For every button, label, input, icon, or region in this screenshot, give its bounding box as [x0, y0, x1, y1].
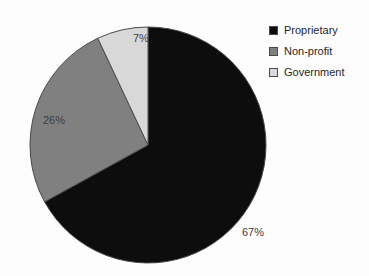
legend-label-non-profit: Non-profit: [284, 46, 332, 57]
legend-item-government[interactable]: Government: [269, 66, 345, 78]
legend-swatch-icon-government: [269, 68, 278, 77]
legend-label-government: Government: [284, 67, 345, 78]
pie-chart-plot-area: 67% 26% 7%: [29, 26, 267, 264]
pie-slice-group: [30, 27, 266, 263]
pie-slice-label-non-profit: 26%: [43, 114, 65, 126]
legend-item-non-profit[interactable]: Non-profit: [269, 45, 345, 57]
legend-label-proprietary: Proprietary: [284, 25, 338, 36]
chart-legend: Proprietary Non-profit Government: [269, 24, 345, 78]
pie-slice-label-government: 7%: [133, 32, 149, 44]
pie-slice-label-proprietary: 67%: [242, 226, 264, 238]
legend-swatch-icon-non-profit: [269, 47, 278, 56]
legend-item-proprietary[interactable]: Proprietary: [269, 24, 345, 36]
chart-figure: 67% 26% 7% Proprietary Non-profit Govern…: [0, 0, 369, 276]
pie-chart-svg: [29, 26, 267, 264]
legend-swatch-icon-proprietary: [269, 26, 278, 35]
